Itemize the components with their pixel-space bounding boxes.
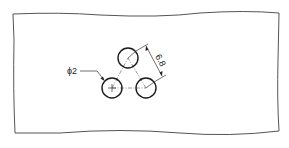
diameter-label: ϕ2 bbox=[67, 66, 77, 76]
diameter-leader: ϕ2 bbox=[67, 66, 105, 81]
drawing-border bbox=[13, 12, 279, 135]
spacing-dimension: 6.8 bbox=[136, 44, 168, 82]
spacing-label: 6.8 bbox=[153, 52, 168, 68]
leader-arrow-icon bbox=[101, 77, 105, 82]
technical-drawing: 6.8 ϕ2 bbox=[0, 0, 289, 148]
center-lines bbox=[108, 58, 146, 92]
